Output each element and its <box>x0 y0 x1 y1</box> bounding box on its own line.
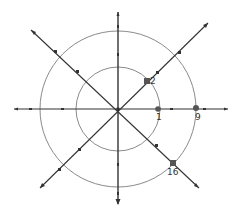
point-label-9: 9 <box>195 113 201 122</box>
point-label-16: 16 <box>167 168 178 177</box>
point-label-2: 2 <box>150 77 156 86</box>
origin-point <box>116 107 120 111</box>
arrow-down-icon <box>116 199 121 205</box>
arrow-right-icon <box>224 108 228 111</box>
arrow-up-icon <box>117 12 120 16</box>
diagonal-axis-ne <box>40 23 208 188</box>
point-16 <box>170 160 176 166</box>
point-label-1: 1 <box>156 113 162 122</box>
polar-diagram <box>0 0 238 210</box>
arrow-left-icon <box>14 108 18 111</box>
point-1 <box>155 106 161 112</box>
point-9 <box>193 105 199 111</box>
